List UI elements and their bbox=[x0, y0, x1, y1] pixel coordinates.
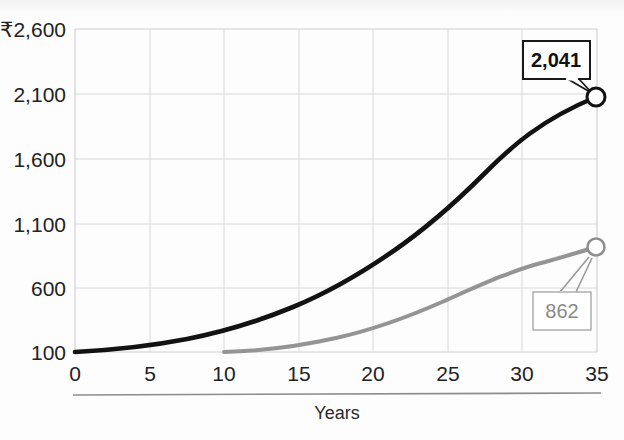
y-axis-tick-labels: ₹2,600 2,100 1,600 1,100 600 100 bbox=[0, 18, 66, 364]
primary-end-marker bbox=[587, 88, 605, 106]
secondary-end-marker bbox=[588, 239, 605, 256]
y-tick-100: 100 bbox=[31, 341, 66, 364]
chart-page: ₹2,600 2,100 1,600 1,100 600 100 862 bbox=[0, 0, 624, 440]
y-tick-2100: 2,100 bbox=[13, 83, 66, 106]
x-axis-tick-labels: 0 5 10 15 20 25 30 35 bbox=[69, 362, 609, 385]
y-tick-1600: 1,600 bbox=[13, 148, 66, 171]
growth-line-chart: ₹2,600 2,100 1,600 1,100 600 100 862 bbox=[0, 0, 624, 440]
x-tick-5: 5 bbox=[144, 362, 156, 385]
x-axis-title: Years bbox=[314, 403, 359, 423]
x-tick-35: 35 bbox=[585, 362, 608, 385]
gridlines-vertical bbox=[75, 29, 597, 352]
x-tick-20: 20 bbox=[361, 362, 384, 385]
primary-end-callout: 2,041 bbox=[523, 41, 592, 93]
x-tick-0: 0 bbox=[69, 362, 81, 385]
x-tick-15: 15 bbox=[287, 362, 310, 385]
secondary-end-callout: 862 bbox=[533, 257, 592, 330]
y-tick-2600: ₹2,600 bbox=[0, 18, 66, 41]
y-tick-1100: 1,100 bbox=[13, 213, 66, 236]
y-tick-600: 600 bbox=[31, 277, 66, 300]
primary-callout-label: 2,041 bbox=[531, 49, 581, 71]
gridlines-horizontal bbox=[75, 29, 597, 352]
x-tick-30: 30 bbox=[510, 362, 533, 385]
x-tick-25: 25 bbox=[436, 362, 459, 385]
secondary-callout-label: 862 bbox=[545, 300, 578, 322]
x-tick-10: 10 bbox=[212, 362, 235, 385]
x-axis-rule bbox=[73, 393, 601, 395]
